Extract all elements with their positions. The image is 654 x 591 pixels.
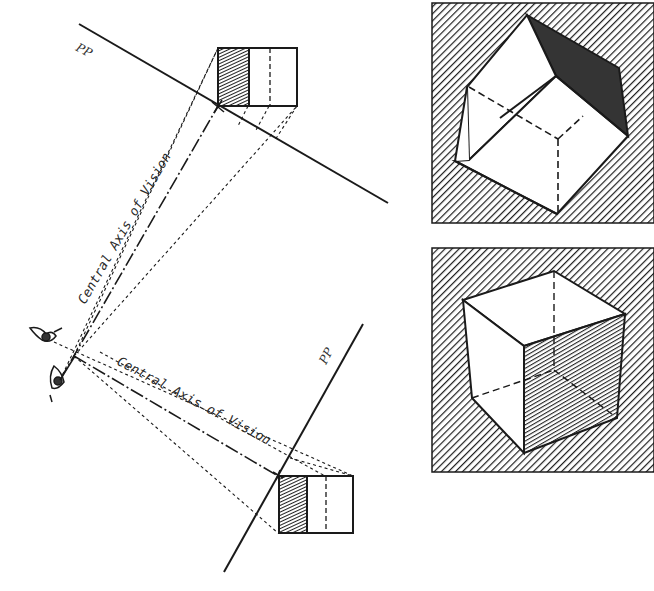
central-axis-upper — [60, 106, 218, 380]
perspective-diagram: PP PP Central Axis of Vision Central Axi… — [0, 0, 654, 591]
central-axis-label-upper: Central Axis of Vision — [75, 150, 174, 307]
plan-view-lower — [279, 476, 353, 533]
plan-view-upper — [218, 48, 297, 106]
picture-plane-label-upper: PP — [73, 40, 96, 61]
shaded-face — [218, 48, 249, 106]
eye-icon — [50, 356, 75, 402]
cube-view-bottom — [432, 248, 654, 472]
picture-plane-label-lower: PP — [316, 345, 337, 368]
picture-plane-lower — [224, 324, 363, 572]
eye-icon — [30, 328, 62, 342]
central-axis-lower — [74, 356, 278, 476]
central-axis-label-lower: Central Axis of Vision — [115, 353, 274, 447]
shaded-face — [279, 476, 307, 533]
cube-view-top — [432, 3, 654, 223]
